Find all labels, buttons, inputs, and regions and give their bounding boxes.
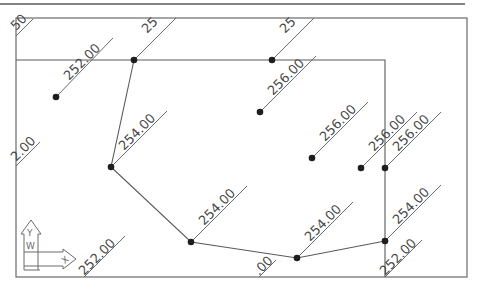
- elevation-labels: 252.002525256.00256.00256.00256.00254.00…: [8, 11, 441, 278]
- elevation-label: .00: [251, 253, 276, 278]
- survey-point[interactable]: [53, 94, 60, 101]
- elevation-label: 256.00: [317, 101, 360, 144]
- elevation-label: 50: [8, 11, 30, 33]
- ucs-icon: Y W X: [21, 220, 76, 270]
- elevation-label: 254.00: [390, 184, 433, 227]
- elevation-label: 252.00: [76, 235, 119, 278]
- survey-point[interactable]: [382, 165, 389, 172]
- survey-point[interactable]: [131, 57, 138, 64]
- elevation-label: 25: [277, 14, 299, 36]
- survey-point[interactable]: [257, 109, 264, 116]
- elevation-label: 25: [139, 14, 161, 36]
- survey-point[interactable]: [382, 238, 389, 245]
- property-boundary-line[interactable]: [16, 60, 385, 277]
- cad-drawing[interactable]: 252.002525256.00256.00256.00256.00254.00…: [0, 0, 477, 290]
- elevation-label: 254.00: [302, 201, 345, 244]
- elevation-label: 252.00: [61, 40, 104, 83]
- survey-points: [53, 57, 389, 262]
- survey-point[interactable]: [269, 57, 276, 64]
- survey-point[interactable]: [309, 155, 316, 162]
- ucs-y-label: Y: [26, 228, 33, 238]
- contour-polyline[interactable]: [111, 60, 385, 258]
- survey-point[interactable]: [294, 255, 301, 262]
- survey-point[interactable]: [188, 239, 195, 246]
- drawing-canvas[interactable]: 252.002525256.00256.00256.00256.00254.00…: [0, 0, 477, 290]
- survey-point[interactable]: [108, 164, 115, 171]
- ucs-w-label: W: [26, 241, 35, 251]
- survey-point[interactable]: [358, 165, 365, 172]
- elevation-label: 254.00: [196, 185, 239, 228]
